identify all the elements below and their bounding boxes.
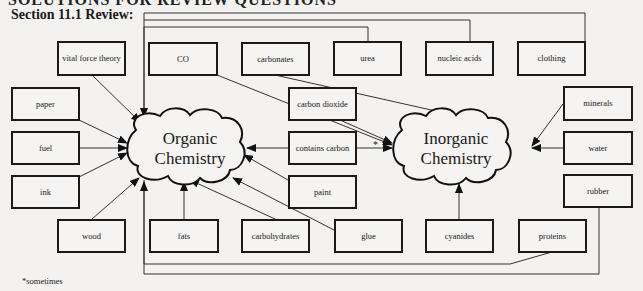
box-fuel: fuel [11, 131, 80, 165]
footnote-sometimes: *sometimes [22, 276, 63, 286]
inorganic-chemistry-label: Inorganic Chemistry [404, 129, 508, 170]
box-carbon-dioxide: carbon dioxide [288, 87, 357, 121]
box-paint: paint [288, 175, 357, 209]
box-contains-carbon: contains carbon [288, 131, 357, 165]
box-cyanides: cyanides [425, 219, 494, 253]
box-glue: glue [334, 219, 403, 253]
box-minerals: minerals [563, 86, 633, 121]
sometimes-asterisk: * [373, 139, 378, 150]
box-nucleic-acids: nucleic acids [425, 41, 494, 76]
box-co: CO [148, 42, 218, 76]
box-water: water [563, 131, 633, 165]
organic-chemistry-label: Organic Chemistry [140, 129, 240, 170]
box-rubber: rubber [563, 174, 633, 208]
inorganic-line2: Chemistry [404, 149, 508, 169]
box-urea: urea [333, 41, 402, 76]
box-ink: ink [11, 175, 80, 209]
organic-line1: Organic [140, 129, 240, 149]
box-clothing: clothing [517, 41, 586, 76]
inorganic-line1: Inorganic [404, 129, 508, 149]
box-vital-force-theory: vital force theory [57, 41, 126, 76]
box-proteins: proteins [518, 219, 587, 253]
box-carbohydrates: carbohydrates [241, 219, 310, 253]
box-fats: fats [149, 219, 219, 253]
box-wood: wood [57, 219, 126, 253]
box-carbonates: carbonates [241, 42, 310, 76]
box-paper: paper [11, 87, 80, 121]
organic-line2: Chemistry [140, 149, 240, 169]
